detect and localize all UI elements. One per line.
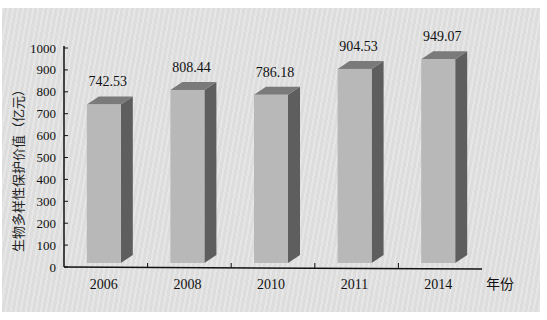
bar-2010: [254, 95, 288, 263]
value-label: 949.07: [423, 29, 462, 44]
y-tick-label: 700: [37, 106, 57, 121]
bar-side: [455, 51, 467, 263]
y-tick-label: 1000: [30, 41, 56, 56]
value-label: 786.18: [256, 65, 295, 80]
bar-side: [372, 61, 384, 263]
y-axis-label: 生物多样性保护价值（亿元）: [11, 83, 26, 252]
y-tick-label: 600: [37, 128, 57, 143]
bar-2006: [87, 104, 121, 263]
bar-2011: [338, 69, 372, 263]
value-label: 742.53: [89, 74, 128, 89]
x-axis: [64, 267, 482, 269]
x-axis-label: 年份: [486, 277, 514, 292]
bar-side: [204, 82, 216, 263]
x-tick-label: 2008: [173, 277, 201, 292]
bar-side: [288, 87, 300, 263]
y-tick-label: 500: [37, 150, 57, 165]
bar-chart: 生物多样性保护价值（亿元）010020030040050060070080090…: [0, 0, 547, 320]
x-tick-label: 2006: [90, 277, 118, 292]
x-tick-label: 2014: [424, 277, 452, 292]
y-tick-label: 100: [37, 238, 57, 253]
bar-2014: [421, 59, 455, 263]
bar-2008: [170, 90, 204, 263]
x-tick-label: 2011: [341, 277, 368, 292]
y-tick-label: 900: [37, 62, 57, 77]
value-label: 904.53: [339, 39, 378, 54]
bar-side: [121, 96, 133, 263]
y-tick-label: 800: [37, 84, 57, 99]
y-tick-label: 300: [37, 194, 57, 209]
y-tick-label: 0: [50, 260, 57, 275]
y-tick-label: 200: [37, 216, 57, 231]
value-label: 808.44: [172, 60, 211, 75]
y-tick-label: 400: [37, 172, 57, 187]
x-tick-label: 2010: [257, 277, 285, 292]
